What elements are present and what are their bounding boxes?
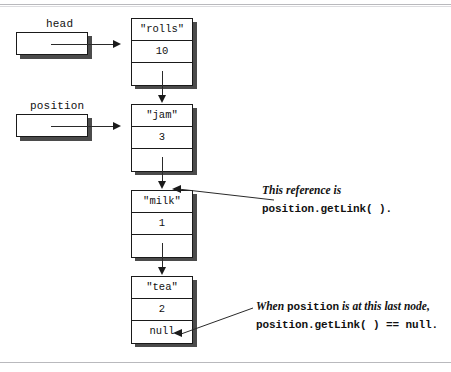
link-rolls-to-jam-arrowhead: [158, 95, 166, 103]
annotation-null-leader-line: [181, 306, 257, 338]
annotation-null-line1: When position is at this last node,: [256, 296, 438, 311]
head-pointer-arrowhead: [113, 40, 121, 48]
node-tea-data: "tea": [132, 277, 192, 299]
annotation-getlink-line2: position.getLink( ).: [262, 198, 392, 213]
node-milk-count: 1: [132, 213, 192, 235]
page-rule-bottom: [0, 362, 451, 363]
reference-label-head: head: [46, 18, 73, 30]
node-jam-data: "jam": [132, 105, 192, 127]
diagram-canvas: head position "rolls" 10 "jam" 3 This re…: [0, 0, 451, 372]
link-jam-to-milk-line: [162, 157, 163, 183]
annotation-getlink: This reference is position.getLink( ).: [262, 180, 392, 213]
annotation-getlink-arrowhead: [172, 185, 181, 193]
link-milk-to-tea-line: [162, 243, 163, 269]
head-pointer-line: [51, 44, 118, 45]
annotation-getlink-line1: This reference is: [262, 180, 392, 195]
link-rolls-to-jam-line: [162, 71, 163, 97]
link-milk-to-tea-arrowhead: [158, 267, 166, 275]
reference-label-position: position: [30, 100, 84, 112]
link-jam-to-milk-arrowhead: [158, 181, 166, 189]
annotation-null-arrowhead: [173, 329, 182, 337]
page-rule-top-hairline: [0, 6, 451, 7]
node-jam-count: 3: [132, 127, 192, 149]
position-pointer-line: [51, 126, 118, 127]
position-pointer-arrowhead: [113, 122, 121, 130]
node-rolls-data: "rolls": [132, 19, 192, 41]
annotation-null: When position is at this last node, posi…: [256, 296, 438, 329]
node-rolls-count: 10: [132, 41, 192, 63]
annotation-null-line2: position.getLink( ) == null.: [256, 314, 438, 329]
page-rule-top: [0, 4, 451, 5]
